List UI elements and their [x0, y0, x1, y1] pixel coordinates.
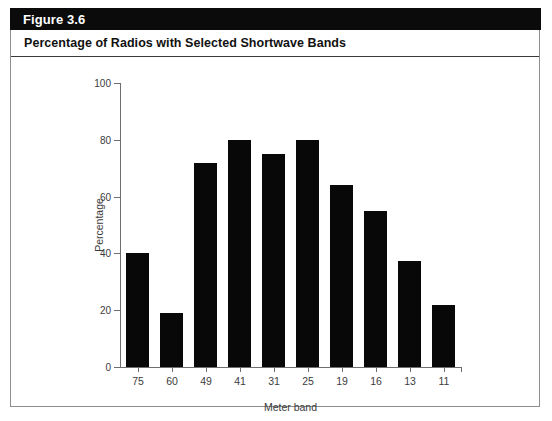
x-tick-label-75: 75: [121, 375, 155, 387]
bar-slot: [257, 83, 291, 367]
x-tick-label-25: 25: [291, 375, 325, 387]
figure-number-label: Figure 3.6: [23, 12, 85, 27]
y-tick-mark: [114, 140, 120, 141]
bar-41: [228, 140, 251, 367]
bar-16: [364, 211, 387, 367]
x-tick-label-16: 16: [359, 375, 393, 387]
x-tick-label-60: 60: [155, 375, 189, 387]
page-title: Percentage of Radios with Selected Short…: [24, 36, 346, 50]
x-tick-mark: [376, 367, 377, 372]
bar-19: [330, 185, 353, 367]
figure-title-row: Percentage of Radios with Selected Short…: [11, 30, 539, 57]
bar-60: [160, 313, 183, 367]
bar-slot: [121, 83, 155, 367]
x-tick-mark: [138, 367, 139, 372]
x-tick-label-31: 31: [257, 375, 291, 387]
bar-49: [194, 163, 217, 367]
x-tick-mark: [444, 367, 445, 372]
bar-slot: [189, 83, 223, 367]
bar-slot: [223, 83, 257, 367]
bar-slot: [291, 83, 325, 367]
bar-13: [398, 261, 421, 368]
bar-slot: [427, 83, 461, 367]
x-tick-label-19: 19: [325, 375, 359, 387]
x-tick-mark: [172, 367, 173, 372]
figure-header-bar: Figure 3.6: [10, 8, 541, 30]
bar-31: [262, 154, 285, 367]
figure-panel: Figure 3.6 Percentage of Radios with Sel…: [10, 8, 540, 407]
bar-series: 75604941312519161311: [121, 83, 461, 367]
x-tick-mark: [461, 367, 462, 372]
x-tick-mark: [342, 367, 343, 372]
bar-11: [432, 305, 455, 367]
x-tick-mark: [240, 367, 241, 372]
y-tick-label: 80: [100, 134, 111, 145]
x-tick-label-13: 13: [393, 375, 427, 387]
bar-slot: [155, 83, 189, 367]
x-tick-label-41: 41: [223, 375, 257, 387]
y-tick-mark: [114, 367, 120, 368]
y-tick-mark: [114, 253, 120, 254]
x-tick-mark: [410, 367, 411, 372]
bar-slot: [325, 83, 359, 367]
x-tick-mark: [206, 367, 207, 372]
y-tick-mark: [114, 197, 120, 198]
y-tick-label: 0: [105, 362, 111, 373]
y-tick-mark: [114, 83, 120, 84]
chart-plot: 020406080100 Percentage 7560494131251916…: [120, 83, 460, 367]
y-tick-label: 100: [94, 78, 111, 89]
x-axis-title: Meter band: [120, 401, 461, 413]
bar-25: [296, 140, 319, 367]
plot-area: 020406080100 Percentage 7560494131251916…: [11, 57, 539, 405]
bar-slot: [359, 83, 393, 367]
x-tick-mark: [274, 367, 275, 372]
x-tick-mark: [308, 367, 309, 372]
y-tick-label: 20: [100, 305, 111, 316]
bar-75: [126, 253, 149, 367]
x-tick-label-11: 11: [427, 375, 461, 387]
x-tick-label-49: 49: [189, 375, 223, 387]
y-tick-mark: [114, 310, 120, 311]
y-axis-title: Percentage: [93, 198, 105, 252]
bar-slot: [393, 83, 427, 367]
